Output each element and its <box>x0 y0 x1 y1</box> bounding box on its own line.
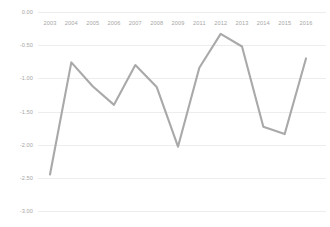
series-line-svg <box>38 0 326 227</box>
y-axis-tick-label: -2.50 <box>0 175 33 181</box>
y-axis: 0.00-0.50-1.00-1.50-2.00-2.50-3.00 <box>0 0 36 227</box>
y-axis-tick-label: -2.00 <box>0 142 33 148</box>
y-axis-tick-label: -0.50 <box>0 42 33 48</box>
y-axis-tick-label: -3.00 <box>0 208 33 214</box>
series-line <box>50 34 306 175</box>
y-axis-tick-label: 0.00 <box>0 9 33 15</box>
y-axis-tick-label: -1.00 <box>0 75 33 81</box>
plot-area: 2003200420052006200720082009201120122013… <box>38 0 326 227</box>
line-chart: 0.00-0.50-1.00-1.50-2.00-2.50-3.00 20032… <box>0 0 330 227</box>
y-axis-tick-label: -1.50 <box>0 109 33 115</box>
